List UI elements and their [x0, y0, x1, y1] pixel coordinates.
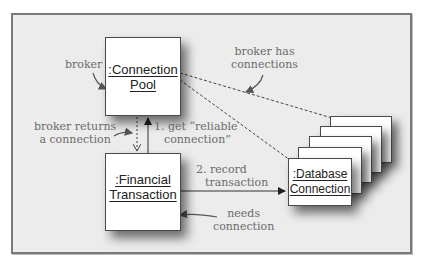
- annotation-broker-returns-line2: a connection: [34, 133, 116, 146]
- financial-transaction-line1: :Financial: [115, 172, 171, 187]
- database-connection-line2: Connection: [290, 182, 351, 197]
- message-label-record-transaction-line1: 2. record: [196, 163, 268, 176]
- annotation-broker-has-line1: broker has: [231, 45, 298, 58]
- annotation-broker: broker: [65, 58, 102, 71]
- annotation-needs-connection-line1: needs: [213, 207, 274, 220]
- message-label-record-transaction: 2. record transaction: [196, 163, 268, 189]
- message-label-record-transaction-line2: transaction: [196, 176, 268, 189]
- financial-transaction-object[interactable]: :Financial Transaction: [105, 153, 181, 231]
- annotation-needs-connection-line2: connection: [213, 220, 274, 233]
- pointer-broker-returns: [114, 132, 132, 136]
- message-label-get-reliable-line1: 1. get “reliable: [154, 120, 238, 133]
- message-label-get-reliable-line2: connection”: [154, 133, 238, 146]
- database-connection-object[interactable]: :Database Connection: [288, 158, 352, 206]
- database-connection-line1: :Database: [293, 167, 348, 182]
- annotation-broker-returns: broker returns a connection: [34, 120, 116, 146]
- annotation-broker-has: broker has connections: [231, 45, 298, 71]
- pointer-needs-connection: [180, 214, 217, 217]
- annotation-broker-returns-line1: broker returns: [34, 120, 116, 133]
- message-label-get-reliable: 1. get “reliable connection”: [154, 120, 238, 146]
- annotation-needs-connection: needs connection: [213, 207, 274, 233]
- connection-pool-line2: Pool: [130, 77, 156, 92]
- connection-pool-line1: :Connection: [108, 62, 177, 77]
- pointer-broker-has: [246, 75, 263, 92]
- annotation-broker-has-line2: connections: [231, 58, 298, 71]
- connection-pool-object[interactable]: :Connection Pool: [105, 37, 181, 116]
- financial-transaction-line2: Transaction: [109, 187, 176, 202]
